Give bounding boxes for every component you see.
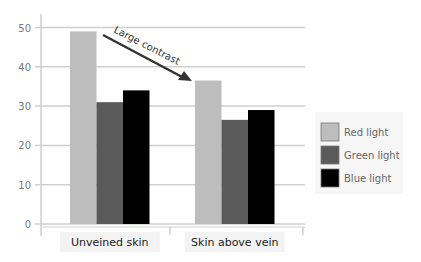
bar-red-light [195,81,222,224]
legend-label: Red light [344,127,388,138]
bar-green-light [97,102,124,224]
bar-blue-light [123,90,150,224]
bar-red-light [70,31,97,224]
y-tick-label: 20 [18,140,31,151]
bar-chart: 01020304050Unveined skinSkin above vein … [0,0,421,262]
y-tick-label: 10 [18,180,31,191]
legend-label: Green light [344,150,400,161]
y-tick-label: 50 [18,23,31,34]
bar-green-light [222,120,249,224]
category-label: Skin above vein [191,236,278,249]
y-tick-label: 30 [18,101,31,112]
legend-swatch [321,146,339,164]
bar-blue-light [248,110,275,224]
annotation: Large contrast [103,24,192,81]
legend-swatch [321,169,339,187]
y-tick-label: 40 [18,62,31,73]
legend-label: Blue light [344,173,392,184]
legend: Red lightGreen lightBlue light [315,112,403,194]
legend-swatch [321,123,339,141]
category-label: Unveined skin [71,236,149,249]
y-tick-label: 0 [25,219,31,230]
